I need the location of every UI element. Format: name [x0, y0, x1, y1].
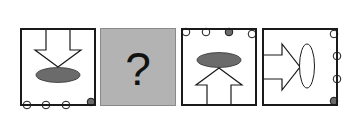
figure-panel-4 — [262, 28, 338, 106]
figure-panel-1 — [20, 28, 96, 106]
panel-1-drawing — [20, 28, 96, 106]
answer-placeholder-panel[interactable]: ? — [100, 28, 176, 106]
open-dot-icon — [248, 30, 256, 38]
panel-4-drawing — [262, 28, 338, 106]
panel-3-drawing — [181, 28, 257, 106]
figure-panel-3 — [181, 28, 257, 106]
question-mark: ? — [125, 46, 151, 92]
filled-ellipse-icon — [197, 53, 241, 68]
open-ellipse-icon — [300, 44, 315, 88]
filled-ellipse-icon — [36, 68, 80, 83]
